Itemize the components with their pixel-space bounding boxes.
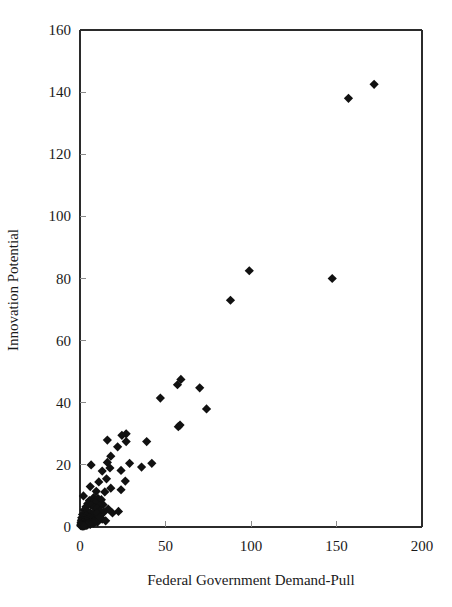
data-point-marker	[328, 274, 337, 283]
y-tick-label: 60	[56, 333, 71, 349]
x-tick-label: 0	[76, 538, 84, 554]
scatter-plot-canvas: 020406080100120140160 050100150200 Feder…	[0, 0, 452, 607]
x-tick-label: 100	[240, 538, 263, 554]
x-axis-title: Federal Government Demand-Pull	[147, 572, 354, 588]
plot-frame	[80, 30, 422, 527]
x-tick-label: 200	[411, 538, 434, 554]
data-point-marker	[103, 435, 112, 444]
y-tick-label: 80	[56, 271, 71, 287]
y-tick-label: 0	[64, 519, 72, 535]
y-axis-title: Innovation Potential	[5, 229, 21, 351]
data-point-marker	[87, 460, 96, 469]
data-point-marker	[113, 442, 122, 451]
y-tick-label: 160	[49, 22, 72, 38]
data-point-marker	[202, 404, 211, 413]
y-tick-label: 40	[56, 395, 71, 411]
x-tick-label: 150	[325, 538, 348, 554]
data-point-marker	[142, 437, 151, 446]
x-axis-ticks: 050100150200	[76, 521, 433, 554]
data-point-marker	[226, 296, 235, 305]
data-point-marker	[147, 459, 156, 468]
y-tick-label: 20	[56, 457, 71, 473]
data-point-group	[76, 80, 379, 531]
data-point-marker	[245, 266, 254, 275]
data-point-marker	[195, 383, 204, 392]
data-point-marker	[137, 462, 146, 471]
scatter-chart-figure: 020406080100120140160 050100150200 Feder…	[0, 0, 452, 607]
x-tick-label: 50	[158, 538, 173, 554]
data-point-marker	[156, 393, 165, 402]
data-point-marker	[121, 476, 130, 485]
data-point-marker	[370, 80, 379, 89]
data-point-marker	[344, 94, 353, 103]
data-point-marker	[125, 459, 134, 468]
data-point-marker	[116, 466, 125, 475]
y-tick-label: 120	[49, 146, 72, 162]
y-tick-label: 100	[49, 208, 72, 224]
data-point-marker	[116, 485, 125, 494]
y-tick-label: 140	[49, 84, 72, 100]
